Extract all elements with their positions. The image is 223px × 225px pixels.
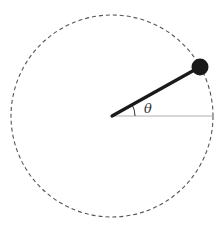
pendulum-bob [192,59,209,76]
rod [112,68,198,116]
pendulum-diagram: θ [0,0,223,225]
angle-theta-label: θ [144,101,152,116]
